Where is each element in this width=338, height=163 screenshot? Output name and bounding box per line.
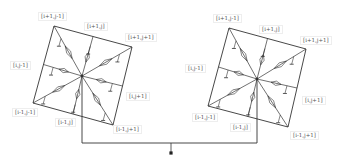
bus-line	[82, 76, 257, 143]
spoke	[257, 49, 306, 79]
stub	[88, 46, 90, 54]
node-label: [i-1,j+1]	[290, 131, 319, 140]
stub	[263, 49, 265, 57]
ground-node-icon	[169, 151, 172, 154]
node-label: [i,j-1]	[10, 61, 31, 70]
stub	[73, 105, 75, 113]
stub	[226, 70, 228, 78]
stub	[234, 41, 236, 49]
cell-left	[33, 26, 132, 125]
stub	[51, 67, 53, 75]
node-label: [i-1,j]	[55, 118, 76, 127]
node-label: [i+1,j]	[259, 25, 283, 34]
node-label: [i-1,j]	[230, 123, 251, 132]
spoke	[33, 76, 82, 103]
stub	[248, 107, 250, 115]
spoke	[54, 26, 82, 76]
spoke	[257, 39, 268, 80]
node-label: [i,j+1]	[302, 96, 326, 105]
node-label: [i+1,j-1]	[38, 12, 67, 21]
lattice-diagram	[0, 0, 338, 163]
node-label: [i+1,j+1]	[300, 36, 332, 45]
node-label: [i+1,j]	[84, 22, 108, 31]
node-label: [i-1,j+1]	[113, 125, 142, 134]
cells-layer	[33, 26, 306, 127]
stub	[59, 39, 61, 47]
spoke	[208, 79, 257, 106]
spoke	[257, 79, 297, 88]
spoke	[82, 37, 93, 77]
spoke	[82, 47, 132, 76]
stub	[285, 86, 287, 94]
stub	[278, 115, 280, 123]
spoke	[82, 76, 123, 86]
node-label: [i,j-1]	[185, 64, 206, 73]
node-label: [i,j+1]	[126, 92, 150, 101]
node-label: [i-1,j-1]	[12, 108, 38, 117]
node-label: [i+1,j+1]	[125, 33, 157, 42]
node-label: [i+1,j-1]	[213, 14, 242, 23]
stub	[103, 113, 105, 121]
stub	[110, 84, 112, 92]
connection-bus	[82, 76, 257, 155]
node-label: [i-1,j-1]	[192, 113, 218, 122]
